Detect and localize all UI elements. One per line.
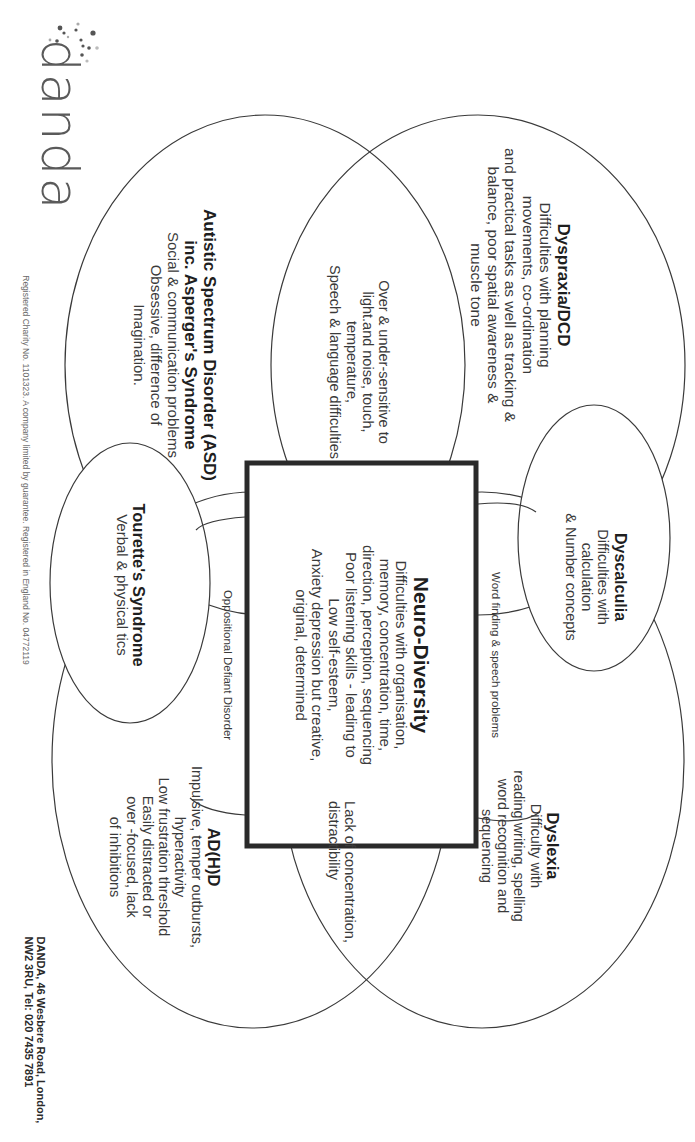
neuro-diversity-block: Neuro-Diversity Difficulties with organi… — [291, 545, 432, 765]
asd-block: Autistic Spectrum Disorder (ASD) inc. As… — [131, 209, 219, 481]
dyscalculia-block: Dyscalculia Difficulties with calculatio… — [563, 513, 630, 640]
concentration-overlap-block: Lack of concentration, distractibility — [326, 801, 358, 943]
odd-label: Oppositional Defiant Disorder — [222, 590, 235, 740]
adhd-title: AD(H)D — [204, 766, 222, 948]
dyspraxia-title: Dyspraxia/DCD — [554, 148, 573, 422]
address-line-1: DANDA, 46 Wesbere Road, London, — [35, 937, 47, 1124]
dyslexia-title: Dyslexia — [543, 770, 561, 922]
dyscalculia-title: Dyscalculia — [611, 513, 629, 640]
asd-subtitle: inc. Asperger's Syndrome — [181, 209, 200, 481]
registration-text: Registered Charity No. 1101323. A compan… — [20, 275, 30, 665]
dyspraxia-block: Dyspraxia/DCD Difficulties with planning… — [467, 148, 573, 422]
sensory-overlap-block: Over & under-sensitive to light.and nois… — [328, 265, 393, 459]
word-finding-label: Word finding & speech problems — [490, 572, 503, 738]
tourettes-block: Tourette's Syndrome Verbal & physical ti… — [112, 503, 147, 666]
address-line-2: NW2 3RU, Tel: 020 7435 7891 — [23, 937, 35, 1124]
asd-title: Autistic Spectrum Disorder (ASD) — [200, 209, 219, 481]
adhd-block: AD(H)D Impulsive, temper outbursts, hype… — [107, 766, 223, 948]
logo-wordmark: danda — [30, 39, 90, 212]
tourettes-title: Tourette's Syndrome — [129, 503, 147, 666]
address-block: DANDA, 46 Wesbere Road, London, NW2 3RU,… — [23, 937, 48, 1124]
dyslexia-block: Dyslexia Difficulty with reading writing… — [478, 770, 561, 922]
neuro-diversity-title: Neuro-Diversity — [409, 545, 433, 765]
